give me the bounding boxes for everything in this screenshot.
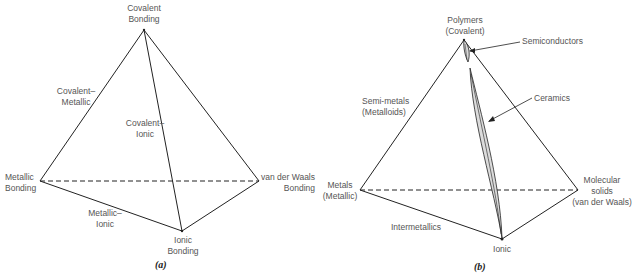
label-line: Bonding xyxy=(160,246,206,257)
label-line: Ionic xyxy=(160,235,206,246)
label-line: Molecular xyxy=(570,175,634,186)
edge-a-bottom-right xyxy=(182,181,259,231)
vertex-dot xyxy=(463,39,465,41)
label-line: solids xyxy=(570,186,634,197)
vertex-label-a-bottom: Ionic Bonding xyxy=(160,235,206,257)
label-line: Covalent– xyxy=(115,118,175,129)
caption-b: (b) xyxy=(474,261,486,272)
edge-label-b-top-left: Semi-metals (Metalloids) xyxy=(362,96,409,118)
edge-label-a-left-bottom: Metallic– Ionic xyxy=(80,208,130,230)
vertex-label-a-right: van der Waals Bonding xyxy=(255,172,315,194)
edge-label-a-top-bottom: Covalent– Ionic xyxy=(115,118,175,140)
edge-label-a-top-left: Covalent– Metallic xyxy=(46,86,106,108)
label-line: Covalent– xyxy=(46,86,106,97)
label-line: (Metalloids) xyxy=(362,107,409,118)
edge-a-top-right xyxy=(144,30,259,181)
semiconductors-pointer xyxy=(470,42,520,51)
label-line: Bonding xyxy=(118,14,170,25)
label-line: Bonding xyxy=(5,183,36,194)
label-line: Ionic xyxy=(115,129,175,140)
label-line: Metallic xyxy=(46,97,106,108)
label-line: Metallic xyxy=(5,172,36,183)
ceramics-region xyxy=(470,68,502,238)
vertex-dot xyxy=(501,238,504,241)
label-line: van der Waals xyxy=(255,172,315,183)
region-label-semiconductors: Semiconductors xyxy=(522,36,583,47)
vertex-label-a-left: Metallic Bonding xyxy=(5,172,36,194)
vertex-label-b-bottom: Ionic xyxy=(487,244,517,255)
vertex-label-b-top: Polymers (Covalent) xyxy=(440,15,490,37)
label-line: Covalent xyxy=(118,3,170,14)
semiconductors-arrowhead xyxy=(469,48,475,53)
vertex-dot xyxy=(143,29,145,31)
label-line: Metallic– xyxy=(80,208,130,219)
label-line: (van der Waals) xyxy=(570,197,634,208)
label-line: (Metallic) xyxy=(320,191,360,202)
ceramics-arrowhead xyxy=(488,116,495,122)
label-line: Semi-metals xyxy=(362,96,409,107)
region-label-ceramics: Ceramics xyxy=(534,93,570,104)
vertex-label-b-left: Metals (Metallic) xyxy=(320,180,360,202)
label-line: Polymers xyxy=(440,15,490,26)
semiconductors-region xyxy=(464,40,469,62)
label-line: Bonding xyxy=(255,183,315,194)
edge-b-bottom-right xyxy=(502,190,578,239)
label-line: (Covalent) xyxy=(440,26,490,37)
label-line: Ionic xyxy=(80,219,130,230)
tetrahedron-b xyxy=(360,40,578,239)
vertex-label-b-right: Molecular solids (van der Waals) xyxy=(570,175,634,208)
edge-label-b-left-bottom: Intermetallics xyxy=(391,222,441,233)
vertex-dot xyxy=(181,230,183,232)
vertex-label-a-top: Covalent Bonding xyxy=(118,3,170,25)
caption-a: (a) xyxy=(155,259,167,270)
label-line: Metals xyxy=(320,180,360,191)
